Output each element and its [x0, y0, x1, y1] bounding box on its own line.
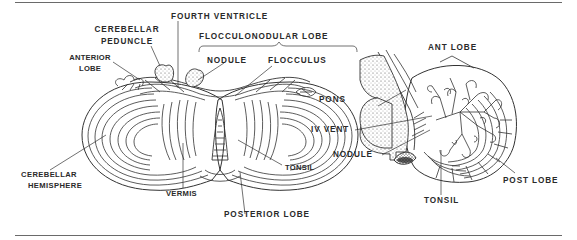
label-cerebellar-peduncle-line1: CEREBELLAR [92, 25, 162, 35]
label-cerebellar-hemisphere-line1: CEREBELLAR [14, 170, 84, 180]
label-anterior-lobe-line1: ANTERIOR [64, 53, 116, 63]
cerebellar-peduncle-left-shape [155, 65, 174, 82]
label-cerebellar-peduncle-line2: PEDUNCLE [94, 37, 160, 47]
label-fourth-ventricle: FOURTH VENTRICLE [171, 12, 268, 22]
label-tonsil-left: TONSIL [285, 163, 315, 173]
label-cerebellar-hemisphere-line2: HEMISPHERE [20, 181, 90, 191]
label-nodule-right: NODULE [333, 150, 373, 160]
label-nodule-left: NODULE [207, 56, 247, 66]
label-flocculus: FLOCCULUS [268, 56, 327, 66]
label-vermis: VERMIS [166, 189, 197, 199]
label-anterior-lobe-line2: LOBE [64, 64, 116, 74]
label-pons: PONS [319, 95, 346, 105]
label-tonsil-right: TONSIL [424, 196, 459, 206]
label-iv-vent: IV VENT [311, 125, 349, 135]
label-post-lobe: POST LOBE [503, 176, 558, 186]
label-posterior-lobe: POSTERIOR LOBE [224, 210, 310, 220]
label-flocculonodular-lobe: FLOCCULONODULAR LOBE [199, 32, 328, 42]
label-ant-lobe: ANT LOBE [428, 43, 477, 53]
